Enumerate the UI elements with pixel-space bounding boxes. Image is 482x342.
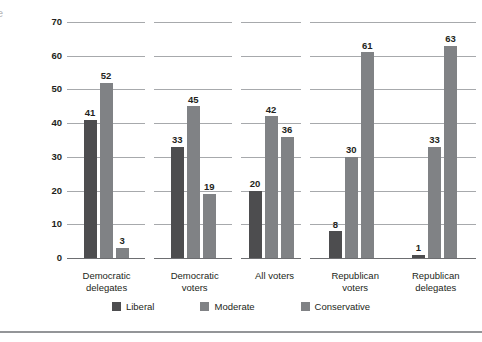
bar-groups: 8306113363: [310, 14, 476, 266]
category-label-republican-delegates: Republicandelegates: [395, 270, 476, 296]
category-label-line1: All voters: [243, 270, 306, 282]
bar-liberal[interactable]: 41: [84, 6, 97, 258]
panel-republican: 8306113363: [310, 14, 476, 266]
legend-label: Moderate: [214, 302, 254, 312]
bar-value-label: 52: [101, 71, 112, 81]
category-label-line1: Democratic: [155, 270, 234, 282]
legend-item-liberal[interactable]: Liberal: [112, 302, 155, 312]
category-label-line1: Republican: [395, 270, 476, 282]
category-label-all-voters: All voters: [243, 270, 306, 296]
legend-swatch-icon: [301, 302, 310, 311]
legend-label: Liberal: [126, 302, 155, 312]
bar-liberal[interactable]: 8: [329, 6, 342, 258]
bar-rect[interactable]: [84, 120, 97, 258]
bar-moderate[interactable]: 52: [100, 6, 113, 258]
legend-item-conservative[interactable]: Conservative: [301, 302, 370, 312]
bar-value-label: 33: [172, 135, 183, 145]
category-label-line1: Republican: [315, 270, 396, 282]
bar-rect[interactable]: [116, 248, 129, 258]
bar-moderate[interactable]: 45: [187, 6, 200, 258]
bar-groups: 334519: [154, 14, 232, 266]
bar-value-label: 20: [250, 179, 261, 189]
bar-group: 13363: [412, 6, 457, 266]
panel-all-voters: 204236: [241, 14, 300, 266]
bar-conservative[interactable]: 63: [444, 6, 457, 258]
bar-rect[interactable]: [265, 116, 278, 258]
bar-moderate[interactable]: 30: [345, 6, 358, 258]
bar-rect[interactable]: [281, 137, 294, 258]
category-label-line2: delegates: [67, 282, 146, 294]
bar-value-label: 41: [85, 108, 96, 118]
bar-conservative[interactable]: 61: [361, 6, 374, 258]
y-axis-tick-50: 50: [40, 85, 62, 95]
y-axis-tick-70: 70: [40, 17, 62, 27]
bar-value-label: 3: [119, 236, 124, 246]
bar-rect[interactable]: [249, 191, 262, 258]
y-axis-tick-30: 30: [40, 152, 62, 162]
bar-value-label: 63: [445, 34, 456, 44]
y-axis-title: Percentage of respondents: [16, 0, 30, 50]
bar-value-label: 45: [188, 95, 199, 105]
category-label-democratic-voters: Democraticvoters: [155, 270, 234, 296]
bar-group: 334519: [171, 6, 216, 266]
legend-item-moderate[interactable]: Moderate: [200, 302, 254, 312]
category-label-republican-voters: Republicanvoters: [315, 270, 396, 296]
bar-liberal[interactable]: 33: [171, 6, 184, 258]
bar-rect[interactable]: [203, 194, 216, 258]
y-axis-tick-0: 0: [40, 253, 62, 263]
category-label-text: Democraticvoters: [155, 270, 234, 294]
chart-legend: LiberalModerateConservative: [0, 302, 482, 312]
bar-groups: 204236: [241, 14, 300, 266]
bar-value-label: 33: [429, 135, 440, 145]
bar-rect[interactable]: [444, 46, 457, 258]
category-label-democratic-delegates: Democraticdelegates: [67, 270, 146, 296]
x-axis-category-labels: DemocraticdelegatesDemocraticvotersAll v…: [67, 270, 476, 296]
legend-swatch-icon: [112, 302, 121, 311]
category-label-republican: RepublicanvotersRepublicandelegates: [315, 270, 476, 296]
y-axis-tick-10: 10: [40, 220, 62, 230]
category-label-line2: voters: [155, 282, 234, 294]
bar-value-label: 1: [416, 243, 421, 253]
bar-rect[interactable]: [329, 231, 342, 258]
bar-value-label: 61: [362, 41, 373, 51]
bar-value-label: 42: [266, 105, 277, 115]
bar-conservative[interactable]: 3: [116, 6, 129, 258]
bar-moderate[interactable]: 33: [428, 6, 441, 258]
legend-swatch-icon: [200, 302, 209, 311]
bar-rect[interactable]: [187, 106, 200, 258]
bar-rect[interactable]: [361, 52, 374, 258]
bar-conservative[interactable]: 36: [281, 6, 294, 258]
edge-partial-glyph: e: [0, 8, 3, 19]
bar-liberal[interactable]: 1: [412, 6, 425, 258]
chart-plot-area: 010203040506070 415233345192042368306113…: [40, 14, 476, 266]
legend-label: Conservative: [315, 302, 370, 312]
bar-value-label: 8: [333, 220, 338, 230]
bar-liberal[interactable]: 20: [249, 6, 262, 258]
y-axis-tick-60: 60: [40, 51, 62, 61]
y-axis-tick-20: 20: [40, 186, 62, 196]
bar-value-label: 30: [346, 145, 357, 155]
bar-value-label: 19: [204, 182, 215, 192]
bar-groups: 41523: [67, 14, 145, 266]
bar-conservative[interactable]: 19: [203, 6, 216, 258]
bar-rect[interactable]: [171, 147, 184, 258]
bar-rect[interactable]: [412, 255, 425, 258]
bar-group: 41523: [84, 6, 129, 266]
category-label-line1: Democratic: [67, 270, 146, 282]
bar-moderate[interactable]: 42: [265, 6, 278, 258]
panel-democratic-delegates: 41523: [67, 14, 145, 266]
category-label-text: Democraticdelegates: [67, 270, 146, 294]
bar-rect[interactable]: [345, 157, 358, 258]
category-label-line2: voters: [315, 282, 396, 294]
bar-rect[interactable]: [428, 147, 441, 258]
bar-rect[interactable]: [100, 83, 113, 258]
y-axis-tick-labels: 010203040506070: [40, 14, 62, 266]
bar-group: 204236: [249, 6, 294, 266]
chart-panels: 415233345192042368306113363: [67, 14, 476, 266]
category-label-text: All voters: [243, 270, 306, 282]
bar-value-label: 36: [282, 125, 293, 135]
bottom-divider: [0, 331, 482, 333]
y-axis-tick-40: 40: [40, 118, 62, 128]
category-label-line2: delegates: [395, 282, 476, 294]
panel-democratic-voters: 334519: [154, 14, 232, 266]
